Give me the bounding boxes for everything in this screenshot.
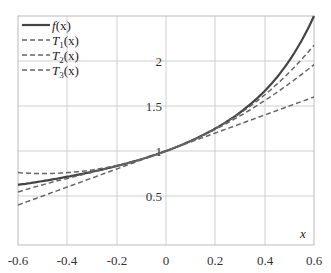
x-tick: 0.6	[306, 253, 323, 268]
legend: f(x) T1(x) T2(x) T3(x)	[22, 18, 79, 80]
x-tick: 0.2	[207, 253, 223, 268]
y-tick-labels: 0.5 1 1.5 2	[146, 54, 162, 204]
x-tick: -0.2	[107, 253, 128, 268]
x-tick-labels: -0.6 -0.4 -0.2 0 0.2 0.4 0.6	[8, 253, 323, 268]
y-tick: 0.5	[146, 189, 162, 204]
legend-label-f: f(x)	[52, 18, 71, 33]
x-tick: 0	[163, 253, 170, 268]
x-axis-label: x	[299, 226, 306, 241]
legend-label-t3: T3(x)	[52, 63, 79, 80]
y-tick: 2	[156, 54, 163, 69]
chart: 0.5 1 1.5 2 -0.6 -0.4 -0.2 0 0.2 0.4 0.6…	[0, 0, 331, 273]
y-tick: 1.5	[146, 99, 162, 114]
x-tick: -0.6	[8, 253, 29, 268]
x-tick: -0.4	[57, 253, 78, 268]
x-tick: 0.4	[257, 253, 274, 268]
grid	[18, 16, 314, 245]
y-tick: 1	[156, 144, 163, 159]
